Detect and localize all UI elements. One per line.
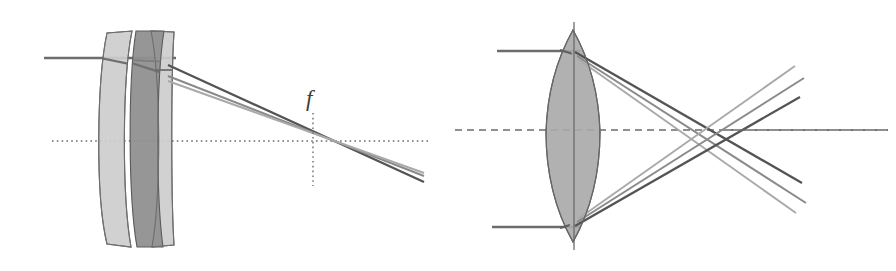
focal-length-label: f xyxy=(306,86,316,111)
figure-root: f xyxy=(0,0,896,271)
left-exit-ray-dark xyxy=(168,65,424,182)
right-ray-lower-light xyxy=(578,66,795,219)
right-upper-beam-rays xyxy=(575,52,806,213)
right-lower-beam-rays xyxy=(575,66,804,226)
lens-diagram-svg: f xyxy=(0,0,896,271)
right-ray-upper-light xyxy=(578,59,796,213)
right-ray-upper-dark xyxy=(575,52,802,183)
right-panel-group xyxy=(455,22,888,250)
left-exit-rays-group xyxy=(168,65,424,182)
right-ray-lower-mid xyxy=(577,78,804,222)
left-exit-ray-light xyxy=(168,81,424,173)
left-panel-group: f xyxy=(44,31,430,247)
